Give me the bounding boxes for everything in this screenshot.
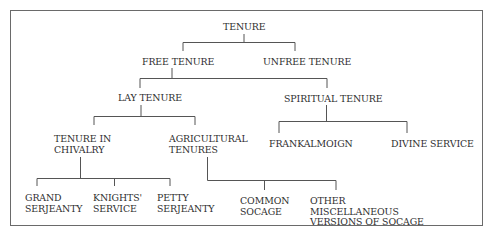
node-common-socage: COMMON SOCAGE bbox=[240, 196, 289, 217]
node-spiritual-tenure: SPIRITUAL TENURE bbox=[284, 94, 383, 105]
node-agricultural-tenures: AGRICULTURAL TENURES bbox=[169, 134, 248, 155]
node-divine-service: DIVINE SERVICE bbox=[391, 139, 474, 150]
node-other-socage: OTHER MISCELLANEOUS VERSIONS OF SOCAGE bbox=[310, 196, 424, 228]
node-knights-service: KNIGHTS' SERVICE bbox=[93, 193, 142, 214]
node-grand-serjeanty: GRAND SERJEANTY bbox=[25, 193, 82, 214]
node-frankalmoign: FRANKALMOIGN bbox=[269, 139, 353, 150]
node-tenure-in-chivalry: TENURE IN CHIVALRY bbox=[54, 134, 111, 155]
connector-agricultural bbox=[208, 157, 337, 190]
node-free-tenure: FREE TENURE bbox=[142, 57, 214, 68]
node-lay-tenure: LAY TENURE bbox=[118, 93, 182, 104]
node-petty-serjeanty: PETTY SERJEANTY bbox=[157, 193, 214, 214]
node-tenure: TENURE bbox=[223, 22, 266, 33]
node-unfree-tenure: UNFREE TENURE bbox=[263, 57, 351, 68]
